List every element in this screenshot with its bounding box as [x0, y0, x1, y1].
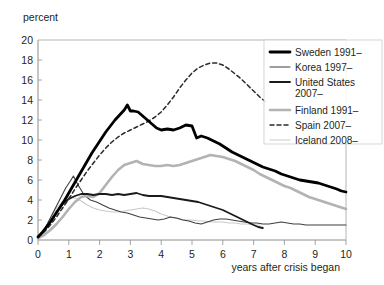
x-tick-label: 4	[158, 248, 164, 260]
x-tick-label: 8	[281, 248, 287, 260]
x-tick-label: 10	[340, 248, 352, 260]
legend-label: Korea 1997–	[295, 62, 353, 73]
legend-label: United States	[295, 77, 355, 88]
y-tick-label: 10	[21, 134, 33, 146]
y-tick-label: 0	[27, 234, 33, 246]
y-axis-title: percent	[23, 11, 58, 23]
x-tick-label: 6	[220, 248, 226, 260]
x-axis-title: years after crisis began	[231, 261, 340, 273]
legend-label: Spain 2007–	[295, 120, 352, 131]
y-tick-label: 18	[21, 54, 33, 66]
legend-label: Sweden 1991–	[295, 47, 362, 58]
y-tick-label: 20	[21, 34, 33, 46]
y-tick-label: 6	[27, 174, 33, 186]
chart-container: percent 02468101214161820 012345678910 y…	[0, 0, 384, 285]
line-chart: percent 02468101214161820 012345678910 y…	[0, 0, 384, 285]
y-tick-label: 12	[21, 114, 33, 126]
x-tick-label: 2	[97, 248, 103, 260]
x-tick-label: 9	[312, 248, 318, 260]
legend-label-cont: 2007–	[295, 88, 323, 99]
x-tick-label: 5	[189, 248, 195, 260]
legend-label: Iceland 2008–	[295, 135, 358, 146]
y-tick-label: 2	[27, 214, 33, 226]
x-tick-label: 7	[251, 248, 257, 260]
legend-label: Finland 1991–	[295, 105, 359, 116]
y-tick-label: 14	[21, 94, 33, 106]
y-tick-label: 4	[27, 194, 33, 206]
chart-legend: Sweden 1991–Korea 1997–United States2007…	[264, 40, 382, 146]
y-tick-label: 16	[21, 74, 33, 86]
x-tick-label: 3	[127, 248, 133, 260]
x-tick-label: 0	[35, 248, 41, 260]
x-tick-label: 1	[66, 248, 72, 260]
y-tick-label: 8	[27, 154, 33, 166]
